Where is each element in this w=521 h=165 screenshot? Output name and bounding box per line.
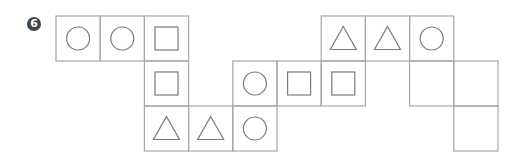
triangle-icon (198, 117, 224, 140)
circle-icon (243, 117, 266, 140)
grid-cell-triangle (144, 106, 188, 151)
triangle-icon (330, 27, 356, 50)
grid-cell-circle (233, 106, 277, 151)
grid-cell-square (277, 61, 321, 106)
grid-cell-empty (454, 61, 498, 106)
grid-cell-square (321, 61, 365, 106)
grid-cell-circle (410, 16, 454, 61)
square-icon (155, 72, 178, 95)
grid-cell-square (144, 61, 188, 106)
circle-icon (420, 27, 443, 50)
square-icon (288, 72, 311, 95)
grid-cell-square (144, 16, 188, 61)
circle-icon (243, 72, 266, 95)
grid-cell-circle (233, 61, 277, 106)
grid-cell-empty (454, 106, 498, 151)
shape-grid-diagram (0, 0, 521, 165)
grid-cell-triangle (189, 106, 233, 151)
square-icon (332, 72, 355, 95)
square-icon (155, 27, 178, 50)
triangle-icon (154, 117, 180, 140)
grid-cell-triangle (321, 16, 365, 61)
grid-cell-triangle (365, 16, 409, 61)
circle-icon (111, 27, 134, 50)
grid-cell-circle (56, 16, 100, 61)
grid-cell-empty (410, 61, 454, 106)
circle-icon (67, 27, 90, 50)
grid-cell-circle (100, 16, 144, 61)
triangle-icon (375, 27, 401, 50)
